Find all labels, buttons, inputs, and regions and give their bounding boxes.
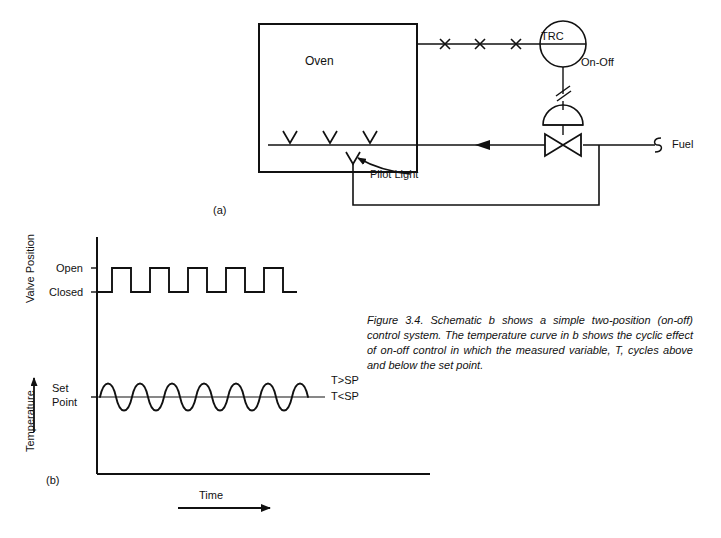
pilot-light-flame-icon xyxy=(346,152,360,164)
pilot-light-label: Pilot Light xyxy=(370,168,418,182)
time-axis-title: Time xyxy=(199,489,223,503)
panel-a-label: (a) xyxy=(213,204,226,218)
controller-mode-label: On-Off xyxy=(581,56,614,70)
temp-below-setpoint-label: T<SP xyxy=(331,390,359,404)
fuel-line-break-symbol xyxy=(655,138,662,152)
valve-closed-label: Closed xyxy=(49,286,83,300)
valve-body-right xyxy=(563,134,581,156)
trc-tag-label: TRC xyxy=(541,30,564,44)
oven-enclosure xyxy=(259,24,417,172)
valve-body-left xyxy=(545,134,563,156)
panel-b-label: (b) xyxy=(46,474,59,488)
oven-label: Oven xyxy=(305,54,334,69)
figure-page: Oven TRC On-Off Fuel Pilot Light (a) (b)… xyxy=(0,0,721,538)
set-point-label: Set Point xyxy=(52,382,77,410)
fuel-flow-arrow xyxy=(475,140,490,150)
burner-flames xyxy=(283,131,377,143)
figure-caption: Figure 3.4. Schematic b shows a simple t… xyxy=(367,313,693,373)
valve-position-square-wave xyxy=(97,268,297,292)
temperature-axis-title: Temperature xyxy=(24,390,36,452)
valve-position-axis-title: Valve Position xyxy=(24,234,36,303)
temp-above-setpoint-label: T>SP xyxy=(331,374,359,388)
figure-canvas xyxy=(0,0,721,538)
fuel-label: Fuel xyxy=(672,138,693,152)
valve-open-label: Open xyxy=(56,262,83,276)
